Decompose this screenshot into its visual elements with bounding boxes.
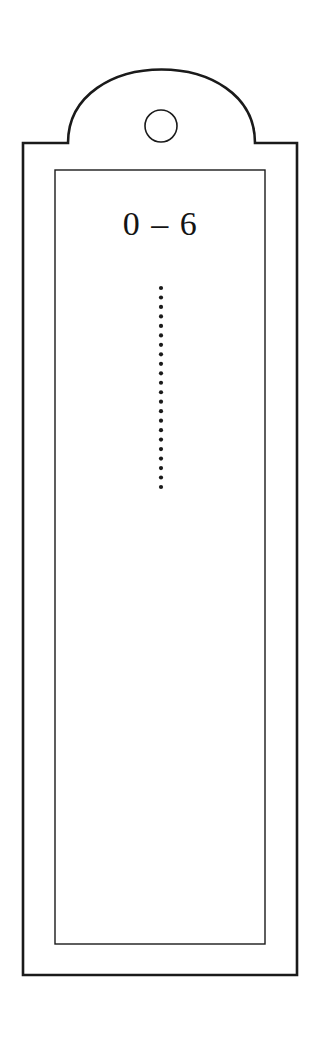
dotted-line-dot bbox=[159, 438, 163, 442]
dotted-line-dot bbox=[159, 371, 163, 375]
dotted-line-dot bbox=[159, 419, 163, 423]
dotted-line-dot bbox=[159, 447, 163, 451]
dotted-line-dot bbox=[159, 475, 163, 479]
dotted-line-dot bbox=[159, 343, 163, 347]
dotted-line-dot bbox=[159, 381, 163, 385]
tag-outline-path bbox=[23, 70, 297, 976]
dotted-line-dot bbox=[159, 390, 163, 394]
dotted-line-dot bbox=[159, 362, 163, 366]
dotted-line-dot bbox=[159, 305, 163, 309]
dotted-line-dot bbox=[159, 456, 163, 460]
dotted-line-dot bbox=[159, 485, 163, 489]
dotted-line-dot bbox=[159, 466, 163, 470]
dotted-line-dot bbox=[159, 428, 163, 432]
dotted-line-dot bbox=[159, 333, 163, 337]
dotted-line-dot bbox=[159, 409, 163, 413]
dotted-line-dot bbox=[159, 352, 163, 356]
tag-drawing bbox=[0, 0, 322, 1045]
dotted-line-dot bbox=[159, 286, 163, 290]
dotted-line-dot bbox=[159, 314, 163, 318]
figure-root: 0 – 6 bbox=[0, 0, 322, 1045]
dotted-line-dot bbox=[159, 295, 163, 299]
dotted-line-dot bbox=[159, 324, 163, 328]
hanging-hole-icon bbox=[145, 110, 177, 142]
dotted-line-dot bbox=[159, 400, 163, 404]
